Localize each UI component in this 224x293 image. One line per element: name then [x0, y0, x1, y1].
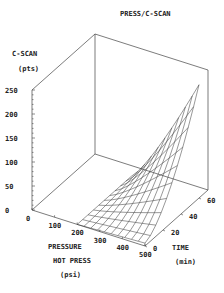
svg-text:500: 500 — [139, 251, 152, 259]
svg-text:150: 150 — [5, 135, 18, 143]
svg-text:0: 0 — [153, 245, 157, 253]
svg-text:60: 60 — [207, 197, 215, 205]
svg-text:400: 400 — [116, 244, 129, 252]
svg-text:20: 20 — [171, 229, 179, 237]
x-axis-label-2: HOT PRESS — [53, 257, 91, 265]
svg-text:0: 0 — [26, 215, 30, 223]
z-axis-unit: (pts) — [18, 65, 39, 73]
svg-text:40: 40 — [189, 213, 197, 221]
svg-text:100: 100 — [49, 222, 62, 230]
surface-mesh — [77, 85, 199, 246]
svg-text:50: 50 — [5, 183, 13, 191]
svg-text:0: 0 — [5, 207, 9, 215]
surface-chart: PRESS/C-SCAN C-SCAN (pts) PRESSURE HOT P… — [0, 0, 224, 293]
svg-text:200: 200 — [5, 111, 18, 119]
x-axis-label: PRESSURE — [48, 243, 82, 251]
y-axis-unit: (min) — [175, 258, 196, 266]
chart-title: PRESS/C-SCAN — [120, 10, 171, 18]
x-axis-unit: (psi) — [60, 271, 81, 279]
svg-text:300: 300 — [94, 237, 107, 245]
svg-text:250: 250 — [5, 87, 18, 95]
z-axis-label: C-SCAN — [12, 50, 37, 58]
y-axis-label: TIME — [172, 244, 189, 252]
svg-text:100: 100 — [5, 159, 18, 167]
svg-text:200: 200 — [71, 229, 84, 237]
